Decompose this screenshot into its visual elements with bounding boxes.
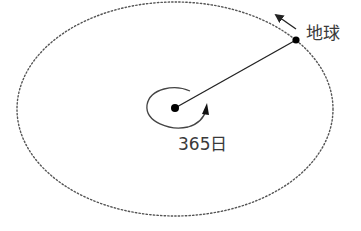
orbit-direction-arrow	[276, 15, 296, 29]
sun-center-dot	[171, 104, 179, 112]
earth-dot	[292, 36, 299, 43]
earth-label: 地球	[306, 19, 340, 44]
radius-line	[175, 40, 296, 108]
rotation-arrowhead-icon	[202, 103, 209, 115]
period-label: 365日	[178, 130, 227, 155]
